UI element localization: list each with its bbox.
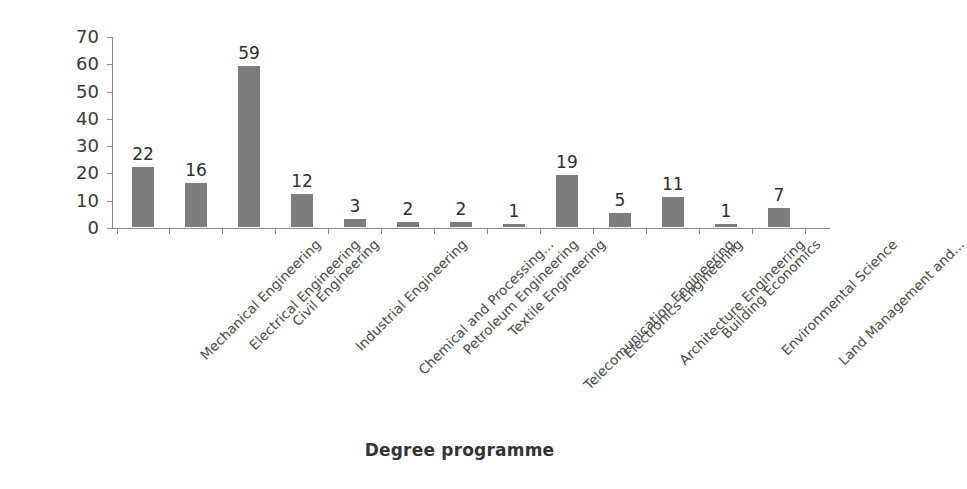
bar-value-label: 1 (706, 203, 746, 220)
bar[interactable] (503, 224, 525, 227)
bar[interactable] (132, 167, 154, 227)
bar-value-label: 59 (229, 45, 269, 62)
bar-value-label: 1 (494, 203, 534, 220)
x-tick (487, 228, 488, 234)
bar-value-label: 2 (441, 201, 481, 218)
x-tick (117, 228, 118, 234)
x-tick (434, 228, 435, 234)
bar[interactable] (662, 197, 684, 227)
x-tick (752, 228, 753, 234)
bar-value-label: 12 (282, 173, 322, 190)
x-tick (646, 228, 647, 234)
bar-value-label: 7 (759, 187, 799, 204)
y-axis-line (112, 37, 113, 229)
bar[interactable] (450, 222, 472, 227)
x-axis-label: Petroleum Engineering (460, 236, 582, 358)
bar[interactable] (768, 208, 790, 227)
x-tick (593, 228, 594, 234)
y-tick: 30 (107, 146, 112, 147)
y-tick: 0 (107, 228, 112, 229)
x-tick (540, 228, 541, 234)
y-tick-label: 20 (76, 162, 99, 183)
x-axis-line (112, 228, 830, 229)
y-tick: 70 (107, 37, 112, 38)
bar-value-label: 5 (600, 192, 640, 209)
bar[interactable] (185, 183, 207, 227)
bar-value-label: 11 (653, 176, 693, 193)
bar-value-label: 16 (176, 162, 216, 179)
x-tick (381, 228, 382, 234)
bar[interactable] (556, 175, 578, 227)
y-tick-label: 0 (88, 217, 99, 238)
y-tick-label: 10 (76, 190, 99, 211)
y-tick-label: 70 (76, 26, 99, 47)
x-tick (222, 228, 223, 234)
y-tick-label: 40 (76, 108, 99, 129)
y-tick-label: 30 (76, 135, 99, 156)
x-tick (328, 228, 329, 234)
bar-value-label: 22 (123, 146, 163, 163)
x-tick (169, 228, 170, 234)
bar[interactable] (291, 194, 313, 227)
plot-area: 010203040506070 2216591232211951117 (112, 37, 830, 228)
y-tick: 50 (107, 92, 112, 93)
y-tick: 60 (107, 64, 112, 65)
bar-value-label: 3 (335, 198, 375, 215)
x-axis-label: Electronics Engineering (620, 236, 745, 361)
y-tick-label: 50 (76, 81, 99, 102)
y-tick: 10 (107, 201, 112, 202)
bar[interactable] (238, 66, 260, 227)
y-tick-label: 60 (76, 53, 99, 74)
bar[interactable] (609, 213, 631, 227)
x-tick (805, 228, 806, 234)
bar[interactable] (397, 222, 419, 227)
y-tick: 20 (107, 173, 112, 174)
x-tick (275, 228, 276, 234)
x-axis-title: Degree programme (0, 440, 919, 460)
x-axis-label: Land Management and... (835, 236, 967, 368)
y-tick: 40 (107, 119, 112, 120)
bar[interactable] (344, 219, 366, 227)
bar-value-label: 19 (547, 154, 587, 171)
bar-value-label: 2 (388, 201, 428, 218)
x-tick (699, 228, 700, 234)
bar[interactable] (715, 224, 737, 227)
